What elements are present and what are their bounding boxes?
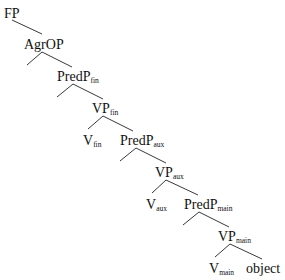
- branch-predp-aux-empty: [120, 148, 136, 161]
- branch-predp-fin-vp-fin: [73, 84, 103, 99]
- node-fp: FP: [4, 6, 20, 21]
- node-predp-fin: PredPfin: [57, 69, 99, 85]
- branch-vp-main-v-main: [215, 244, 230, 257]
- node-object: object: [246, 261, 280, 276]
- branch-vp-fin-predp-aux: [103, 116, 133, 131]
- branch-vp-aux-v-aux: [152, 180, 166, 193]
- node-agrop: AgrOP: [24, 37, 64, 52]
- branch-agrop-empty: [27, 52, 42, 65]
- branch-predp-fin-empty: [57, 84, 73, 97]
- node-v-aux: Vaux: [146, 197, 167, 213]
- node-vp-main: VPmain: [218, 229, 251, 245]
- syntax-tree: FP AgrOP PredPfin VPfin Vfin PredPaux VP…: [0, 0, 285, 280]
- node-predp-aux: PredPaux: [120, 133, 165, 149]
- branch-fp-agrop: [12, 20, 42, 34]
- node-vp-aux: VPaux: [155, 165, 184, 181]
- branch-predp-main-vp-main: [199, 212, 229, 227]
- branch-predp-main-empty: [183, 212, 199, 225]
- branch-vp-fin-v-fin: [88, 116, 103, 129]
- branch-vp-aux-predp-main: [166, 180, 198, 195]
- branch-predp-aux-vp-aux: [136, 148, 166, 163]
- branch-agrop-predp-fin: [42, 52, 72, 67]
- branch-vp-main-object: [230, 244, 262, 259]
- node-v-fin: Vfin: [83, 133, 102, 149]
- node-v-main: Vmain: [209, 261, 234, 277]
- node-predp-main: PredPmain: [184, 197, 233, 213]
- node-vp-fin: VPfin: [92, 101, 118, 117]
